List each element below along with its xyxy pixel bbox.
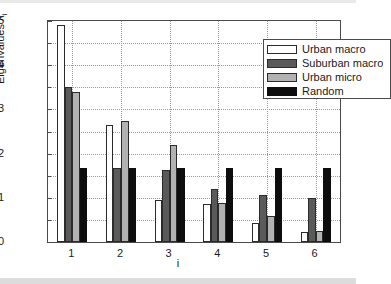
legend-item: Urban macro [267, 42, 387, 56]
bar [301, 232, 309, 242]
bar [259, 195, 267, 242]
bar [252, 223, 260, 242]
x-axis-title: i [0, 258, 356, 269]
bar [65, 87, 73, 242]
legend-label-random: Random [302, 85, 344, 97]
scan-edge-bottom [0, 278, 356, 284]
bar [72, 92, 80, 242]
y-tick-mark-minor [48, 43, 51, 44]
grid-line-horizontal-minor [48, 176, 340, 177]
y-tick-label: 0.3 [0, 103, 4, 114]
y-tick-mark-minor [48, 132, 51, 133]
bar [308, 198, 316, 242]
y-axis-title: Eigenvalues λi [0, 0, 11, 84]
bar [106, 125, 114, 242]
legend-swatch-urban-macro [267, 45, 297, 54]
legend-item: Random [267, 84, 387, 98]
y-tick-label: 0.5 [0, 15, 4, 26]
y-tick-mark-minor [48, 176, 51, 177]
y-tick-label: 0.4 [0, 59, 4, 70]
legend-label-urban-macro: Urban macro [302, 43, 366, 55]
legend-label-urban-micro: Urban micro [302, 71, 362, 83]
bar [323, 168, 331, 242]
bar [162, 170, 170, 242]
y-tick-label: 0 [0, 236, 4, 247]
bar [267, 216, 275, 242]
grid-line-horizontal-minor [48, 220, 340, 221]
legend-swatch-urban-micro [267, 73, 297, 82]
legend-item: Urban micro [267, 70, 387, 84]
grid-line-horizontal [48, 154, 340, 155]
grid-line-horizontal-minor [48, 132, 340, 133]
legend[interactable]: Urban macro Suburban macro Urban micro R… [263, 39, 391, 99]
bar [80, 168, 88, 242]
grid-line-horizontal [48, 109, 340, 110]
legend-swatch-suburban-macro [267, 59, 297, 68]
bar [170, 145, 178, 242]
scan-edge-top [0, 0, 356, 3]
y-tick-mark [48, 198, 52, 199]
y-tick-mark-minor [48, 87, 51, 88]
y-tick-label: 0.2 [0, 148, 4, 159]
bar [275, 168, 283, 242]
grid-line-horizontal [48, 198, 340, 199]
legend-item: Suburban macro [267, 56, 387, 70]
legend-label-suburban-macro: Suburban macro [302, 57, 383, 69]
plot-area: Urban macro Suburban macro Urban micro R… [47, 20, 341, 243]
y-tick-mark-minor [48, 220, 51, 221]
y-tick-label: 0.1 [0, 192, 4, 203]
y-tick-mark [48, 109, 52, 110]
y-tick-mark [48, 154, 52, 155]
y-tick-mark [48, 65, 52, 66]
legend-swatch-random [267, 87, 297, 96]
bar [57, 25, 65, 242]
y-tick-mark [48, 21, 52, 22]
bar [121, 121, 129, 242]
y-tick-mark [48, 242, 52, 243]
bar [316, 231, 324, 242]
bar [113, 168, 121, 242]
bar [218, 203, 226, 242]
bar [129, 168, 137, 242]
bar [203, 204, 211, 242]
bar [155, 200, 163, 242]
bar [177, 168, 185, 242]
bar [211, 189, 219, 242]
bar [226, 168, 234, 242]
